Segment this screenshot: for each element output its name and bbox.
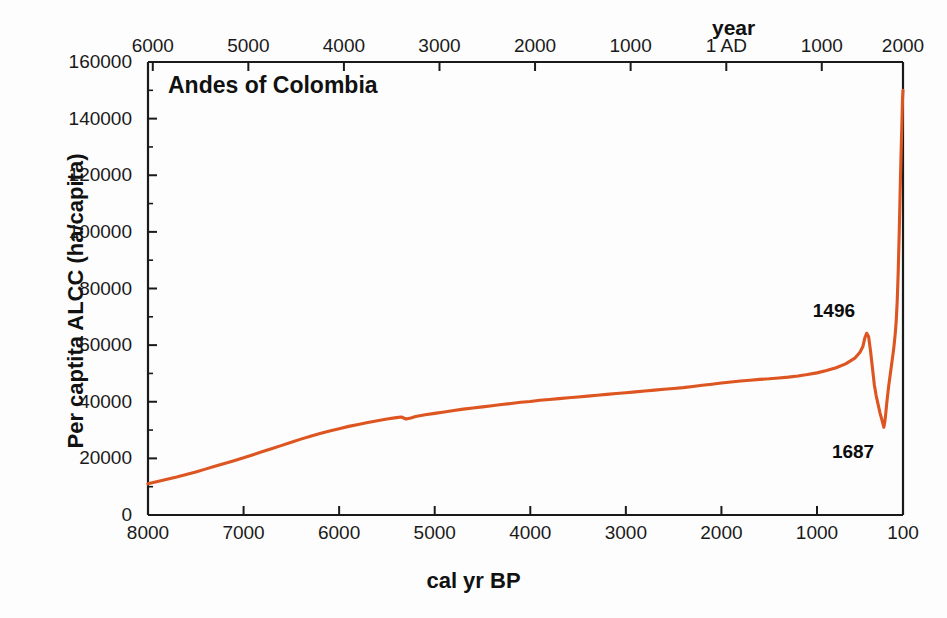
x-top-tick-label: 2000 xyxy=(514,35,556,57)
chart-title: Andes of Colombia xyxy=(168,72,378,99)
x-top-tick-label: 2000 xyxy=(882,35,924,57)
x-axis-bottom-ticks xyxy=(148,506,903,515)
annotation-label: 1496 xyxy=(813,300,855,322)
x-bottom-tick-label: 100 xyxy=(887,522,919,544)
x-top-tick-label: 5000 xyxy=(227,35,269,57)
y-tick-label: 160000 xyxy=(0,51,132,73)
y-tick-label: 80000 xyxy=(0,278,132,300)
y-tick-label: 120000 xyxy=(0,164,132,186)
y-tick-label: 100000 xyxy=(0,221,132,243)
x-top-tick-label: 1 AD xyxy=(706,35,747,57)
x-bottom-tick-label: 2000 xyxy=(700,522,742,544)
y-tick-label: 60000 xyxy=(0,334,132,356)
x-top-tick-label: 1000 xyxy=(801,35,843,57)
x-bottom-tick-label: 7000 xyxy=(222,522,264,544)
x-top-tick-label: 1000 xyxy=(609,35,651,57)
data-series-line xyxy=(148,90,903,484)
x-top-tick-label: 4000 xyxy=(323,35,365,57)
y-tick-label: 140000 xyxy=(0,108,132,130)
y-tick-label: 40000 xyxy=(0,391,132,413)
x-bottom-tick-label: 1000 xyxy=(796,522,838,544)
y-tick-label: 20000 xyxy=(0,447,132,469)
x-bottom-tick-label: 6000 xyxy=(318,522,360,544)
x-bottom-tick-label: 8000 xyxy=(127,522,169,544)
x-top-tick-label: 6000 xyxy=(132,35,174,57)
x-bottom-tick-label: 3000 xyxy=(605,522,647,544)
plot-frame xyxy=(148,62,903,515)
y-axis-major-ticks xyxy=(148,62,157,515)
x-axis-top-ticks xyxy=(153,62,903,71)
x-top-tick-label: 3000 xyxy=(418,35,460,57)
x-bottom-tick-label: 5000 xyxy=(414,522,456,544)
chart-figure: Andes of Colombia Per captita ALCC (ha/c… xyxy=(0,0,947,618)
x-bottom-tick-label: 4000 xyxy=(509,522,551,544)
annotation-label: 1687 xyxy=(832,441,874,463)
y-tick-label: 0 xyxy=(0,504,132,526)
x-axis-bottom-label: cal yr BP xyxy=(0,568,947,594)
